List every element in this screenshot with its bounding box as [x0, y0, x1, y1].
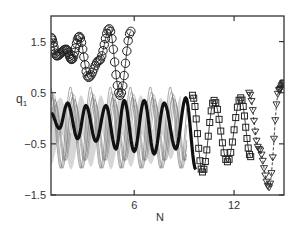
y-axis-label: q1	[16, 92, 28, 108]
plot-series	[47, 25, 288, 191]
y-tick-label: −1.5	[24, 189, 46, 201]
y-axis-label-main: q	[16, 92, 23, 106]
x-tick-labels: 612	[131, 199, 240, 211]
y-tick-labels: −1.5−0.50.51.5	[24, 36, 46, 201]
x-tick-label: 12	[228, 199, 240, 211]
y-tick-label: 0.5	[31, 87, 46, 99]
y-axis-label-subscript: 1	[23, 99, 28, 108]
chart: −1.5−0.50.51.5 612 N q1	[0, 0, 297, 232]
y-tick-label: −0.5	[24, 138, 46, 150]
x-tick-label: 6	[131, 199, 137, 211]
y-tick-label: 1.5	[31, 36, 46, 48]
x-axis-label: N	[156, 211, 164, 223]
